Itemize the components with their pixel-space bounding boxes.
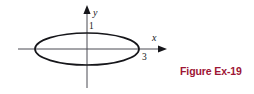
plot-svg <box>0 0 180 94</box>
x-intercept-tick-label: 3 <box>142 53 147 63</box>
y-axis-label: y <box>93 8 97 18</box>
figure-container: y x 1 3 Figure Ex-19 <box>0 0 254 94</box>
x-axis-label: x <box>152 33 156 43</box>
y-axis-arrowhead <box>83 5 90 14</box>
figure-caption: Figure Ex-19 <box>180 66 254 78</box>
x-axis-arrowhead <box>158 45 167 52</box>
y-intercept-tick-label: 1 <box>89 22 94 32</box>
plot-area: y x 1 3 <box>0 0 180 94</box>
